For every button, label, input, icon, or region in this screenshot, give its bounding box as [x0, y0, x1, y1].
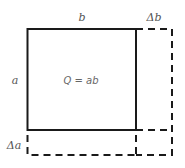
label-delta-a: Δa — [6, 139, 22, 152]
label-b: b — [78, 11, 85, 24]
label-area-equation: Q = ab — [63, 75, 98, 86]
label-a: a — [12, 74, 19, 87]
label-delta-b: Δb — [146, 11, 162, 24]
delta-a-extension — [28, 135, 137, 155]
area-diagram: b Δb a Δa Q = ab — [0, 0, 185, 168]
delta-b-extension — [136, 29, 172, 155]
